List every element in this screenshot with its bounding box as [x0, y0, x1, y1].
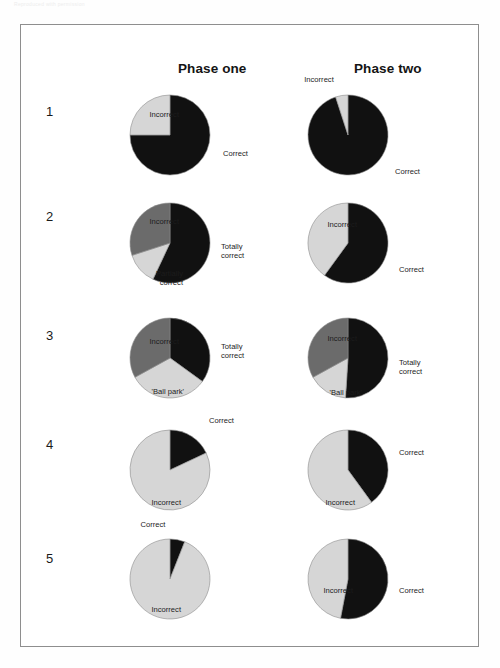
- pie-slice-label: Incorrect: [327, 334, 357, 343]
- pie-slice-label: Correct: [399, 448, 424, 457]
- pie-slice-label: Correct: [395, 167, 420, 176]
- row-number-5: 5: [46, 551, 53, 566]
- pie-slice-label: Incorrect: [327, 220, 357, 229]
- pie-slice-label: Correct: [399, 586, 424, 595]
- pie-slice-label: Incorrect: [151, 605, 181, 614]
- column-header-phase-two: Phase two: [354, 61, 422, 76]
- pie-chart-r4-phase-two: CorrectIncorrect: [301, 422, 461, 540]
- pie-slice-label: 'Ball park': [152, 387, 184, 396]
- pie-chart-r1-phase-two: CorrectIncorrect: [301, 87, 461, 205]
- pie-svg: [301, 87, 397, 183]
- pie-chart-r3-phase-two: Totally correct'Ball park'Incorrect: [301, 310, 461, 428]
- pie-slice-label: Partially correct: [156, 269, 183, 287]
- row-number-2: 2: [46, 209, 53, 224]
- pie-slice-label: Correct: [209, 416, 234, 425]
- row-number-3: 3: [46, 328, 53, 343]
- pie-slice-label: Incorrect: [149, 217, 179, 226]
- pie-svg: [301, 531, 397, 627]
- pie-chart-r1-phase-one: CorrectIncorrect: [123, 87, 283, 205]
- figure-root: Reproduced with permission Phase one Pha…: [0, 0, 500, 668]
- row-number-1: 1: [46, 104, 53, 119]
- pie-slice-label: Correct: [399, 265, 424, 274]
- pie-slice-label: Incorrect: [149, 110, 179, 119]
- pie-slice-label: Incorrect: [323, 586, 353, 595]
- pie-chart-r3-phase-one: Totally correct'Ball park'Incorrect: [123, 310, 283, 428]
- pie-chart-r2-phase-one: Totally correctPartially correctIncorrec…: [123, 195, 283, 313]
- row-number-4: 4: [46, 437, 53, 452]
- pie-slice-label: Totally correct: [399, 358, 422, 376]
- pie-slice-label: 'Ball park': [330, 388, 362, 397]
- pie-slice-label: Incorrect: [325, 498, 355, 507]
- pie-slice-label: Totally correct: [221, 242, 244, 260]
- pie-slice-label: Incorrect: [149, 337, 179, 346]
- pie-svg: [123, 87, 219, 183]
- pie-slice-label: Totally correct: [221, 342, 244, 360]
- faint-page-header: Reproduced with permission: [14, 1, 85, 7]
- pie-slice: [345, 318, 388, 398]
- pie-chart-r2-phase-two: CorrectIncorrect: [301, 195, 461, 313]
- pie-slice: [308, 539, 348, 618]
- pie-chart-r5-phase-two: CorrectIncorrect: [301, 531, 461, 649]
- pie-chart-r5-phase-one: CorrectIncorrect: [123, 531, 283, 649]
- pie-svg: [301, 195, 397, 291]
- figure-frame: Phase one Phase two 1 2 3 4 5 CorrectInc…: [20, 24, 479, 647]
- column-header-phase-one: Phase one: [178, 61, 246, 76]
- pie-slice-label: Correct: [223, 149, 248, 158]
- pie-slice-label: Correct: [141, 520, 166, 529]
- pie-slice-label: Incorrect: [151, 498, 181, 507]
- pie-slice-label: Incorrect: [304, 75, 334, 84]
